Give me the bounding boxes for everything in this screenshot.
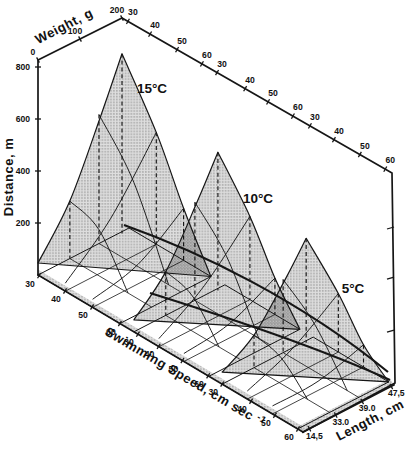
surface-sails	[38, 54, 389, 406]
axis-title-weight: Weight, g	[33, 5, 96, 47]
speed-bottom-label: 60	[284, 432, 294, 442]
speed-bottom-label: 50	[169, 364, 179, 374]
weight-label: 200	[110, 5, 125, 15]
speed-top-label: 30	[310, 112, 320, 122]
speed-bottom-label: 50	[78, 310, 88, 320]
right-axis-tick	[387, 330, 394, 332]
temp-label-15c: 15°C	[137, 81, 167, 96]
speed-top-label: 50	[360, 141, 370, 151]
distance-label: 600	[16, 114, 31, 124]
speed-bottom-label: 40	[51, 294, 61, 304]
distance-label: 400	[16, 166, 31, 176]
length-label: 39.0	[359, 403, 376, 413]
speed-top-label: 30	[128, 7, 138, 17]
speed-bottom-label: 50	[261, 418, 271, 428]
speed-top-label: 30	[217, 59, 227, 69]
distance-label: 800	[16, 62, 31, 72]
speed-bottom-label: 30	[208, 387, 218, 397]
length-label: 47,5	[388, 388, 405, 398]
speed-bottom-label: 40	[237, 404, 247, 414]
speed-top-label: 60	[202, 50, 212, 60]
figure: Distance, m Weight, g Swimming Speed, cm…	[0, 0, 419, 454]
temp-label-10c: 10°C	[243, 191, 273, 206]
speed-top-label: 60	[293, 102, 303, 112]
length-label: 14,5	[306, 431, 323, 441]
speed-bottom-label: 60	[194, 379, 204, 389]
speed-top-label: 60	[386, 155, 396, 165]
speed-bottom-label: 30	[124, 337, 134, 347]
speed-top-label: 40	[245, 75, 255, 85]
speed-bottom-label: 30	[25, 279, 35, 289]
weight-label: 100	[68, 26, 83, 36]
weight-label: 0	[31, 47, 36, 57]
speed-bottom-label: 60	[106, 327, 116, 337]
speed-top-label: 40	[334, 126, 344, 136]
speed-bottom-label: 40	[145, 349, 155, 359]
speed-top-label: 50	[268, 88, 278, 98]
3d-surface-figure: Distance, m Weight, g Swimming Speed, cm…	[0, 0, 419, 454]
axis-title-distance: Distance, m	[1, 138, 16, 216]
speed-top-label: 40	[150, 20, 160, 30]
temp-label-5c: 5°C	[342, 281, 365, 296]
length-label: 33.0	[332, 417, 349, 427]
speed-top-label: 50	[177, 36, 187, 46]
distance-label: 200	[16, 218, 31, 228]
